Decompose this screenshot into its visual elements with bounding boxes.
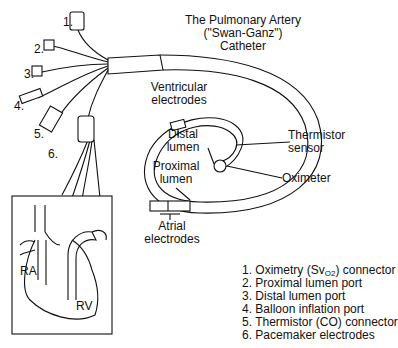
rv-label: RV	[76, 300, 92, 313]
connector-number-4: 4.	[14, 100, 24, 113]
connector-number-6: 6.	[48, 148, 58, 161]
connector-number-3: 3.	[24, 68, 34, 81]
distal-lumen-label: Distal lumen	[160, 128, 206, 154]
distal-leader	[208, 148, 214, 164]
thermistor-sensor-label: Thermistor sensor	[288, 129, 345, 155]
proximal-line-2: lumen	[148, 173, 204, 186]
connector-number-5: 5.	[34, 128, 44, 141]
connector-2	[44, 40, 54, 50]
thermistor-line-2: sensor	[288, 142, 345, 155]
oximeter-tip	[214, 160, 226, 172]
ventricular-electrodes-label: Ventricular electrodes	[144, 81, 214, 107]
atrial-electrodes-label: Atrial electrodes	[140, 220, 204, 246]
atrial-line-2: electrodes	[140, 233, 204, 246]
proximal-lumen-label: Proximal lumen	[148, 160, 204, 186]
title-line-3: Catheter	[168, 40, 318, 53]
distal-line-2: lumen	[160, 141, 206, 154]
legend-item: 6. Pacemaker electrodes	[242, 329, 398, 342]
ra-label: RA	[20, 265, 37, 278]
oximeter-leader	[227, 166, 282, 178]
proximal-leader	[176, 188, 190, 200]
connector-number-2: 2.	[34, 43, 44, 56]
atrial-electrode	[150, 201, 190, 211]
connector-number-1: 1.	[63, 16, 73, 29]
legend: 1. Oximetry (SvO2) connector 2. Proximal…	[242, 264, 398, 342]
connector-6	[78, 116, 94, 142]
oximeter-label: Oximeter	[282, 172, 331, 185]
thermistor-leader	[236, 142, 290, 145]
catheter-hub	[108, 55, 163, 74]
ventricular-line-2: electrodes	[144, 94, 214, 107]
diagram-title: The Pulmonary Artery ("Swan-Ganz") Cathe…	[168, 14, 318, 53]
